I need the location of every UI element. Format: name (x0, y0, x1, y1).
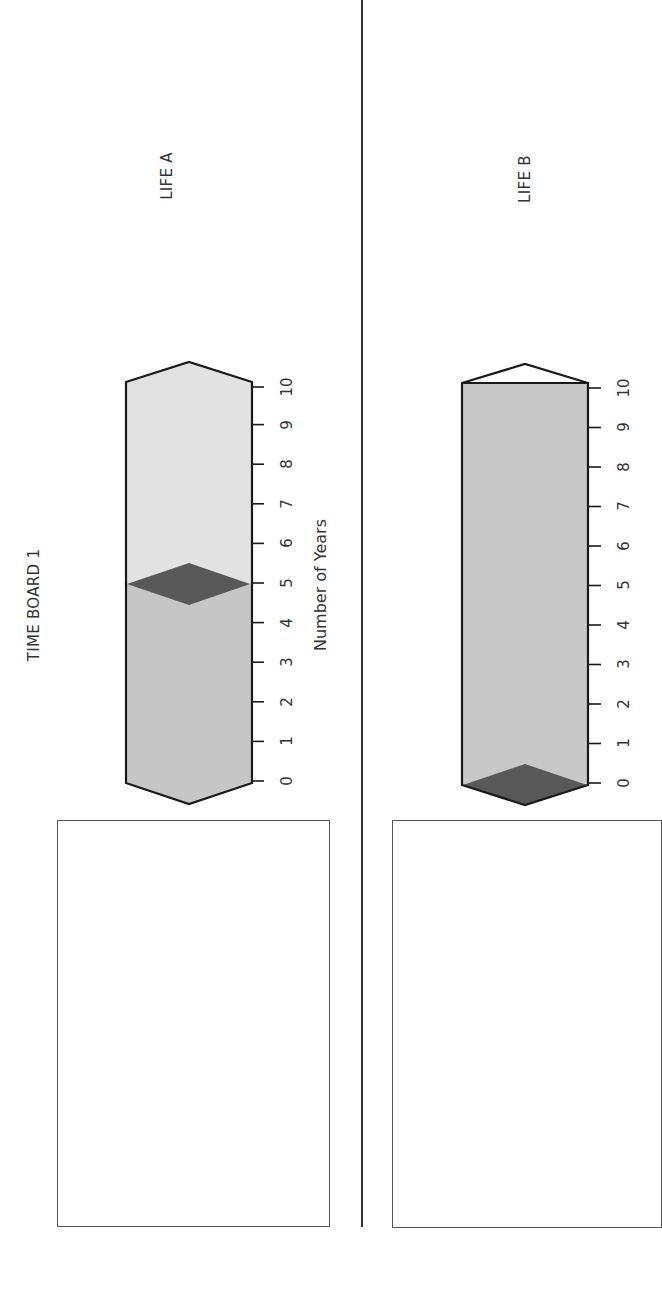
tick-label: 10 (278, 377, 296, 396)
tick-label: 6 (278, 538, 296, 548)
life-b-empty-cap (462, 364, 588, 383)
tick-label: 2 (615, 699, 633, 709)
tick-label: 10 (615, 378, 633, 397)
tick-label: 0 (615, 778, 633, 788)
tick-label: 3 (278, 657, 296, 667)
tick-label: 9 (615, 422, 633, 432)
tick-label: 3 (615, 659, 633, 669)
tick-label: 9 (278, 420, 296, 430)
life-b-elapsed-fill (462, 383, 588, 805)
life-b-ticks (588, 388, 601, 783)
tick-label: 1 (278, 736, 296, 746)
tick-label: 1 (615, 738, 633, 748)
axis-label-number-of-years: Number of Years (311, 519, 330, 651)
tick-label: 7 (615, 501, 633, 511)
life-a-remaining-fill (126, 362, 252, 584)
tick-label: 6 (615, 541, 633, 551)
tick-label: 2 (278, 697, 296, 707)
life-a-answer-box[interactable] (57, 820, 330, 1227)
tick-label: 7 (278, 499, 296, 509)
tick-label: 5 (278, 578, 296, 588)
life-b-answer-box[interactable] (392, 820, 662, 1228)
life-a-gauge (126, 362, 264, 804)
life-b-gauge (462, 364, 601, 805)
tick-label: 8 (615, 462, 633, 472)
tick-label: 8 (278, 459, 296, 469)
tick-label: 4 (615, 620, 633, 630)
tick-label: 5 (615, 580, 633, 590)
life-a-ticks (252, 387, 264, 781)
tick-label: 0 (278, 776, 296, 786)
life-a-elapsed-fill (126, 584, 252, 804)
tick-label: 4 (278, 618, 296, 628)
